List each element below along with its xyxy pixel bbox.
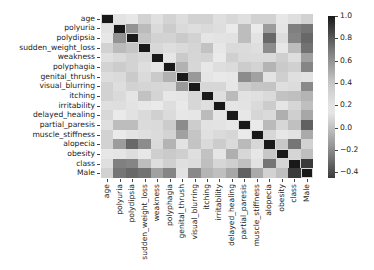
heatmap-cell bbox=[201, 130, 214, 140]
heatmap-cell bbox=[126, 72, 139, 82]
heatmap-cell bbox=[201, 159, 214, 169]
heatmap-cell bbox=[226, 91, 239, 101]
heatmap-cell bbox=[213, 130, 226, 140]
heatmap-cell bbox=[188, 149, 201, 159]
colorbar-tick-mark bbox=[335, 128, 338, 129]
heatmap-cell bbox=[263, 149, 276, 159]
heatmap-cell-diagonal bbox=[251, 130, 264, 140]
heatmap-cell-diagonal bbox=[138, 43, 151, 53]
heatmap-cell bbox=[163, 159, 176, 169]
heatmap-cell bbox=[188, 62, 201, 72]
heatmap-cell bbox=[251, 110, 264, 120]
heatmap-cell bbox=[138, 101, 151, 111]
y-tick-label: polydipsia bbox=[56, 34, 95, 42]
heatmap-cell bbox=[163, 130, 176, 140]
heatmap-cell bbox=[238, 101, 251, 111]
heatmap-cell bbox=[251, 43, 264, 53]
y-tick-label: class bbox=[76, 160, 95, 168]
heatmap-cell bbox=[226, 82, 239, 92]
colorbar-tick-label: 0.4 bbox=[340, 79, 352, 87]
colorbar-tick-mark bbox=[335, 16, 338, 17]
x-tick-mark bbox=[257, 179, 258, 182]
heatmap-cell bbox=[226, 149, 239, 159]
heatmap-cell bbox=[301, 14, 314, 24]
heatmap-cell bbox=[288, 82, 301, 92]
heatmap-cell bbox=[101, 33, 114, 43]
heatmap-cell bbox=[201, 14, 214, 24]
colorbar-tick-mark bbox=[335, 38, 338, 39]
y-tick-mark bbox=[97, 38, 100, 39]
heatmap-cell bbox=[213, 43, 226, 53]
heatmap-cell bbox=[263, 62, 276, 72]
heatmap-cell bbox=[188, 33, 201, 43]
heatmap-cell-diagonal bbox=[176, 72, 189, 82]
heatmap-cell bbox=[276, 53, 289, 63]
heatmap-cell bbox=[101, 120, 114, 130]
heatmap-cell bbox=[101, 149, 114, 159]
y-tick-label: age bbox=[81, 15, 95, 23]
heatmap-cell bbox=[226, 53, 239, 63]
heatmap-cell bbox=[238, 139, 251, 149]
heatmap-cell-diagonal bbox=[101, 14, 114, 24]
x-tick-label: muscle_stiffness bbox=[253, 184, 261, 247]
heatmap-cell bbox=[226, 159, 239, 169]
heatmap-cell bbox=[113, 159, 126, 169]
heatmap-cell bbox=[276, 14, 289, 24]
heatmap-cell bbox=[126, 101, 139, 111]
heatmap-cell bbox=[101, 91, 114, 101]
heatmap-cell bbox=[138, 159, 151, 169]
heatmap-cell bbox=[126, 62, 139, 72]
y-tick-mark bbox=[97, 164, 100, 165]
heatmap-cell bbox=[288, 120, 301, 130]
heatmap-cell bbox=[301, 139, 314, 149]
heatmap-cell bbox=[113, 82, 126, 92]
heatmap-cell bbox=[251, 53, 264, 63]
heatmap-cell bbox=[151, 62, 164, 72]
correlation-heatmap: agepolyuriapolydipsiasudden_weight_lossw… bbox=[0, 0, 374, 270]
y-tick-mark bbox=[97, 115, 100, 116]
heatmap-cell bbox=[101, 110, 114, 120]
heatmap-cell bbox=[288, 53, 301, 63]
colorbar-tick-label: 0.6 bbox=[340, 57, 352, 65]
heatmap-cell bbox=[213, 168, 226, 178]
heatmap-cell bbox=[288, 72, 301, 82]
heatmap-cell bbox=[163, 53, 176, 63]
heatmap-cell bbox=[101, 159, 114, 169]
x-tick-mark bbox=[269, 179, 270, 182]
heatmap-cell-diagonal bbox=[126, 33, 139, 43]
y-tick-label: delayed_healing bbox=[33, 111, 95, 119]
heatmap-cell bbox=[188, 53, 201, 63]
heatmap-cell bbox=[213, 82, 226, 92]
heatmap-cell bbox=[263, 72, 276, 82]
heatmap-cell bbox=[113, 62, 126, 72]
heatmap-cell bbox=[226, 120, 239, 130]
heatmap-cell bbox=[151, 110, 164, 120]
heatmap-cell bbox=[288, 24, 301, 34]
heatmap-cell bbox=[276, 43, 289, 53]
colorbar-tick-label: −0.4 bbox=[340, 168, 358, 176]
heatmap-cell bbox=[188, 130, 201, 140]
heatmap-cell bbox=[126, 14, 139, 24]
heatmap-cell bbox=[251, 149, 264, 159]
heatmap-cell bbox=[176, 43, 189, 53]
heatmap-cell bbox=[213, 149, 226, 159]
x-tick-mark bbox=[107, 179, 108, 182]
heatmap-cell bbox=[288, 130, 301, 140]
heatmap-cell bbox=[101, 53, 114, 63]
y-tick-mark bbox=[97, 86, 100, 87]
colorbar-tick-mark bbox=[335, 83, 338, 84]
heatmap-cell bbox=[138, 53, 151, 63]
heatmap-cell bbox=[238, 159, 251, 169]
y-tick-label: polyuria bbox=[64, 24, 95, 32]
heatmap-cell bbox=[276, 130, 289, 140]
heatmap-cell bbox=[151, 120, 164, 130]
heatmap-cell bbox=[138, 33, 151, 43]
heatmap-cell bbox=[201, 168, 214, 178]
heatmap-cell bbox=[276, 24, 289, 34]
heatmap-cell bbox=[238, 149, 251, 159]
heatmap-cell bbox=[101, 43, 114, 53]
heatmap-cell bbox=[213, 33, 226, 43]
heatmap-cell bbox=[238, 168, 251, 178]
heatmap-cell bbox=[251, 82, 264, 92]
y-tick-label: muscle_stiffness bbox=[32, 131, 95, 139]
